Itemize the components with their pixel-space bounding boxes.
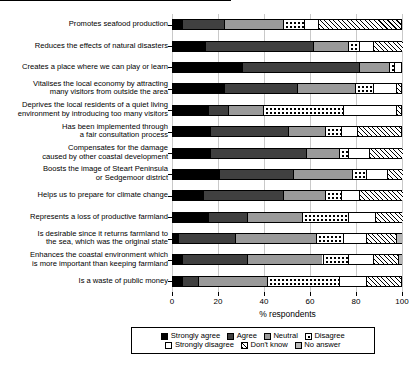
category-label: Is a waste of public money	[0, 277, 176, 286]
bar-segment-neutral	[228, 106, 263, 115]
bar-segment-no-answer	[401, 277, 403, 286]
category-label: Enhances the coastal environment which i…	[0, 251, 176, 268]
legend-swatch-disagree-icon	[305, 333, 312, 340]
bar-segment-strongly-agree	[173, 20, 182, 29]
bar-segment-strongly-agree	[173, 170, 219, 179]
bar-row	[172, 169, 402, 180]
legend-swatch-neutral-icon	[264, 333, 271, 340]
bar-segment-agree	[205, 42, 313, 51]
category-label: Represents a loss of productive farmland	[0, 213, 176, 222]
bar-segment-dont-know	[318, 20, 401, 29]
x-tick-label-0: 0	[157, 297, 187, 306]
bar-segment-dont-know	[357, 127, 401, 136]
bar-segment-neutral	[293, 170, 353, 179]
legend: Strongly agreeAgreeNeutralDisagree Stron…	[131, 327, 375, 354]
bar-segment-strongly-agree	[173, 149, 210, 158]
bar-segment-strongly-disagree	[359, 42, 373, 51]
bar-segment-no-answer	[401, 20, 403, 29]
bar-segment-dont-know	[359, 191, 403, 200]
legend-label: Agree	[237, 332, 257, 340]
bar-segment-agree	[178, 234, 236, 243]
category-label: Helps us to prepare for climate change	[0, 191, 176, 200]
legend-label: Disagree	[314, 332, 344, 340]
bar-segment-strongly-disagree	[343, 106, 396, 115]
legend-item-no-answer: No answer	[295, 341, 341, 349]
bar-segment-strongly-agree	[173, 213, 208, 222]
bar-segment-strongly-agree	[173, 127, 210, 136]
category-label: Vitalises the local economy by attractin…	[0, 80, 176, 97]
x-axis-line	[0, 0, 231, 1]
x-tick-label-60: 60	[295, 297, 325, 306]
legend-item-strongly-disagree: Strongly disagree	[165, 341, 234, 349]
bar-segment-strongly-disagree	[341, 191, 359, 200]
x-tick-0	[172, 292, 173, 296]
bar-row	[172, 126, 402, 137]
legend-label: No answer	[304, 341, 340, 349]
legend-item-dont-know: Don't know	[241, 341, 288, 349]
bar-segment-neutral	[198, 277, 267, 286]
bar-row	[172, 212, 402, 223]
bar-segment-neutral	[224, 20, 284, 29]
bar-segment-strongly-disagree	[394, 63, 401, 72]
legend-label: Strongly agree	[171, 332, 220, 340]
bar-row	[172, 105, 402, 116]
x-tick-40	[264, 292, 265, 296]
bar-segment-strongly-agree	[173, 277, 182, 286]
bar-segment-agree	[182, 20, 223, 29]
bar-segment-agree	[208, 213, 247, 222]
bar-segment-strongly-disagree	[373, 84, 396, 93]
x-tick-label-80: 80	[341, 297, 371, 306]
bar-segment-strongly-agree	[173, 63, 242, 72]
x-tick-60	[310, 292, 311, 296]
category-label: Creates a place where we can play or lea…	[0, 63, 176, 72]
bar-segment-dont-know	[387, 170, 403, 179]
bar-segment-agree	[208, 106, 229, 115]
bar-segment-no-answer	[396, 234, 403, 243]
bar-row	[172, 254, 402, 265]
bar-segment-agree	[242, 63, 359, 72]
bar-segment-disagree	[323, 255, 348, 264]
bar-segment-no-answer	[401, 63, 403, 72]
bar-segment-disagree	[325, 127, 341, 136]
bar-segment-disagree	[325, 191, 341, 200]
bar-segment-disagree	[348, 42, 360, 51]
legend-row-1: Strongly agreeAgreeNeutralDisagree	[136, 332, 370, 340]
bar-segment-no-answer	[401, 127, 403, 136]
bar-segment-no-answer	[401, 106, 403, 115]
legend-label: Neutral	[273, 332, 297, 340]
bar-segment-neutral	[297, 84, 355, 93]
bar-segment-strongly-disagree	[343, 234, 366, 243]
category-label: Promotes seafood production	[0, 20, 176, 29]
bar-segment-agree	[224, 84, 298, 93]
bar-segment-agree	[182, 277, 198, 286]
bar-segment-no-answer	[401, 84, 403, 93]
bar-segment-dont-know	[369, 149, 404, 158]
legend-swatch-dont-know-icon	[241, 342, 248, 349]
category-label: Deprives the local residents of a quiet …	[0, 101, 176, 118]
bar-segment-strongly-agree	[173, 191, 203, 200]
bar-segment-neutral	[283, 191, 324, 200]
bar-segment-agree	[182, 255, 246, 264]
legend-swatch-agree-icon	[227, 333, 234, 340]
bar-row	[172, 83, 402, 94]
legend-row-2: Strongly disagreeDon't knowNo answer	[136, 341, 370, 349]
bar-row	[172, 233, 402, 244]
bar-segment-neutral	[235, 234, 316, 243]
bar-row	[172, 41, 402, 52]
bar-segment-agree	[210, 127, 288, 136]
bar-segment-disagree	[302, 213, 348, 222]
category-label: Compensates for the damage caused by oth…	[0, 144, 176, 161]
bar-segment-strongly-disagree	[339, 277, 367, 286]
bar-segment-disagree	[283, 20, 304, 29]
bar-row	[172, 276, 402, 287]
legend-swatch-strongly-disagree-icon	[165, 342, 172, 349]
legend-label: Don't know	[250, 341, 287, 349]
x-tick-100	[402, 292, 403, 296]
bar-segment-disagree	[263, 106, 344, 115]
bar-segment-strongly-agree	[173, 42, 205, 51]
bar-segment-neutral	[247, 255, 323, 264]
x-tick-label-100: 100	[387, 297, 412, 306]
bar-segment-strongly-disagree	[304, 20, 318, 29]
bar-row	[172, 19, 402, 30]
stacked-bar-chart: Promotes seafood productionReduces the e…	[0, 0, 412, 373]
